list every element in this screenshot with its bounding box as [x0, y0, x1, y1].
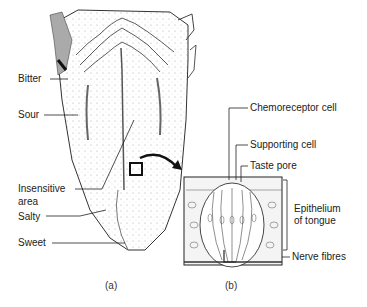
taste-bud-section — [184, 177, 282, 267]
label-chemoreceptor-cell: Chemoreceptor cell — [250, 102, 337, 114]
label-taste-pore: Taste pore — [250, 160, 297, 172]
label-insensitive-area-2: area — [18, 196, 38, 208]
label-nerve-fibres: Nerve fibres — [292, 251, 346, 263]
label-bitter: Bitter — [18, 73, 41, 85]
label-sour: Sour — [18, 109, 39, 121]
label-epithelium-2: of tongue — [294, 215, 336, 227]
label-supporting-cell: Supporting cell — [250, 139, 316, 151]
label-insensitive-area-1: Insensitive — [18, 183, 65, 195]
label-epithelium-1: Epithelium — [294, 203, 341, 215]
caption-b: (b) — [225, 280, 237, 291]
label-salty: Salty — [18, 211, 40, 223]
caption-a: (a) — [105, 280, 117, 291]
label-sweet: Sweet — [18, 237, 46, 249]
tongue-illustration — [50, 10, 196, 250]
